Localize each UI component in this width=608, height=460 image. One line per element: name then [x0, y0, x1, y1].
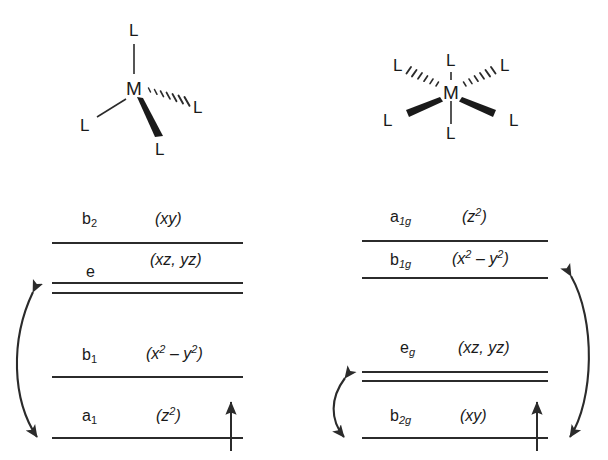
- level-label-a1g: a1g: [390, 209, 411, 225]
- level-orbitals-a1: (z2): [156, 408, 181, 424]
- left-ligand-bottom: L: [155, 141, 164, 158]
- left-metal-center: M: [126, 79, 142, 98]
- energy-level-line-e-upper: [52, 282, 243, 284]
- left-ligand-top: L: [129, 22, 138, 39]
- bond-plain-lowerleft-left-structure: [97, 99, 126, 117]
- energy-level-line-eg-upper: [362, 371, 548, 373]
- level-label-b1g: b1g: [390, 252, 411, 268]
- energy-level-line-b1g: [362, 277, 548, 279]
- right-ligand-upper-right: L: [500, 57, 509, 74]
- splitting-arrow-right-outer: [570, 276, 589, 437]
- energy-level-line-eg-lower: [362, 380, 548, 382]
- bond-hashed-wedge-upperleft-right-structure: [407, 67, 439, 86]
- level-orbitals-b1g: (x2 – y2): [452, 251, 509, 267]
- right-ligand-upper-left: L: [393, 57, 402, 74]
- right-ligand-lower-left: L: [383, 112, 392, 129]
- level-label-b2: b2: [82, 211, 97, 227]
- bond-solid-wedge-lowerleft-right-structure: [406, 97, 443, 117]
- bond-hashed-wedge-right-left-structure: [149, 88, 190, 106]
- right-ligand-top: L: [446, 52, 455, 69]
- right-ligand-bottom: L: [446, 125, 455, 142]
- splitting-arrow-right-inner: [334, 378, 345, 437]
- energy-level-line-b1: [52, 376, 243, 378]
- bond-solid-wedge-lowerright-right-structure: [459, 97, 496, 117]
- right-metal-center: M: [443, 83, 459, 102]
- level-label-e: e: [86, 264, 95, 280]
- left-ligand-lower-left: L: [80, 117, 89, 134]
- level-label-b1: b1: [82, 347, 97, 363]
- energy-level-line-a1: [52, 437, 243, 439]
- left-ligand-right: L: [193, 99, 202, 116]
- level-label-a1: a1: [82, 408, 97, 424]
- vector-overlay: [0, 0, 608, 460]
- energy-level-line-e-lower: [52, 292, 243, 294]
- energy-level-line-a1g: [362, 240, 548, 242]
- level-orbitals-e: (xz, yz): [150, 252, 202, 268]
- level-label-b2g: b2g: [390, 408, 411, 424]
- energy-level-line-b2g: [362, 437, 548, 439]
- level-label-eg: eg: [400, 340, 415, 356]
- right-ligand-lower-right: L: [509, 112, 518, 129]
- level-orbitals-eg: (xz, yz): [458, 340, 510, 356]
- splitting-arrow-left: [17, 292, 37, 437]
- bond-hashed-wedge-upperright-right-structure: [464, 67, 496, 86]
- crystal-field-splitting-figure: L M L L L L L L M L L L b2 (xy) e (xz, y…: [0, 0, 608, 460]
- level-orbitals-b1: (x2 – y2): [146, 346, 203, 362]
- energy-level-line-b2: [52, 242, 243, 244]
- bond-solid-wedge-bottom-left-structure: [137, 97, 163, 137]
- level-orbitals-b2: (xy): [155, 211, 182, 227]
- level-orbitals-a1g: (z2): [462, 209, 487, 225]
- level-orbitals-b2g: (xy): [460, 408, 487, 424]
